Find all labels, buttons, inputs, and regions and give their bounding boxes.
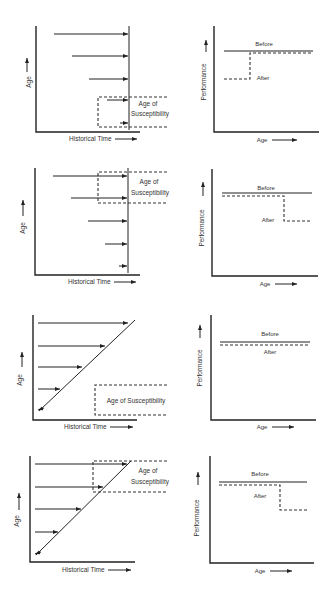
row3-right-panel: Before After Performance Age <box>196 315 316 430</box>
box-label-line1: Age of <box>139 467 158 475</box>
before-label: Before <box>251 471 269 477</box>
x-axis-label: Historical Time <box>62 566 105 573</box>
before-label: Before <box>255 41 273 47</box>
y-axis-label: Age <box>16 374 24 386</box>
row2-left-panel: Age of Susceptibility Age Historical Tim… <box>19 168 170 285</box>
y-axis-label: Performance <box>196 349 203 387</box>
box-label: Age of Susceptibility <box>107 397 166 405</box>
row1-left-panel: Age of Susceptibility Age Historical Tim… <box>25 26 170 142</box>
y-axis-label: Performance <box>198 209 205 247</box>
x-axis-label: Age <box>257 424 268 430</box>
x-axis-label: Age <box>255 568 266 574</box>
before-label: Before <box>261 331 279 337</box>
x-axis-label: Age <box>260 281 271 287</box>
after-label: After <box>254 493 267 499</box>
x-axis-label: Age <box>257 137 268 143</box>
row3-left-panel: Age of Susceptibility Age Historical Tim… <box>16 315 167 430</box>
row4-left-panel: Age of Susceptibility Age Historical Tim… <box>13 456 170 573</box>
cohort-diagonal <box>36 461 131 555</box>
after-label: After <box>262 217 275 223</box>
after-label: After <box>257 75 270 81</box>
before-label: Before <box>257 185 275 191</box>
y-axis-label: Age <box>13 515 21 527</box>
row1-right-panel: Before After Performance Age <box>200 26 319 143</box>
box-label-line2: Susceptibility <box>131 189 170 197</box>
row2-right-panel: Before After Performance Age <box>198 169 318 287</box>
y-axis-label: Age <box>19 222 27 234</box>
box-label-line1: Age of <box>140 178 159 186</box>
x-axis-label: Historical Time <box>69 135 112 142</box>
y-axis-label: Performance <box>193 499 200 537</box>
box-label-line2: Susceptibility <box>131 478 170 486</box>
x-axis-label: Historical Time <box>64 423 107 430</box>
after-label: After <box>264 349 277 355</box>
row4-right-panel: Before After Performance Age <box>193 456 314 574</box>
box-label-line2: Susceptibility <box>131 110 170 118</box>
x-axis-label: Historical Time <box>68 278 111 285</box>
y-axis-label: Age <box>25 76 33 88</box>
box-label-line1: Age of <box>139 100 158 108</box>
y-axis-label: Performance <box>200 63 207 101</box>
diagram-canvas: Age of Susceptibility Age Historical Tim… <box>0 0 334 599</box>
